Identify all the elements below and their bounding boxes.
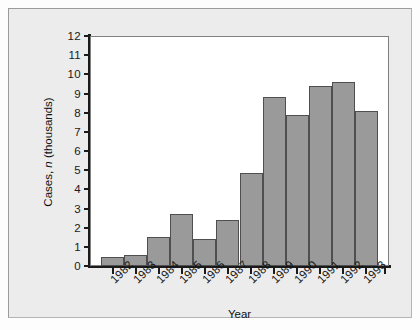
bar xyxy=(240,173,263,266)
bar xyxy=(332,82,355,266)
bar xyxy=(170,214,193,266)
figure-panel: 0123456789101112 Cases, n (thousands) 19… xyxy=(8,8,412,318)
bar xyxy=(263,97,286,266)
x-tick-mark xyxy=(384,267,386,274)
bar xyxy=(286,115,309,266)
bar xyxy=(355,111,378,266)
bar xyxy=(309,86,332,266)
x-axis-label: Year xyxy=(90,308,389,320)
figure: 0123456789101112 Cases, n (thousands) 19… xyxy=(0,0,420,330)
